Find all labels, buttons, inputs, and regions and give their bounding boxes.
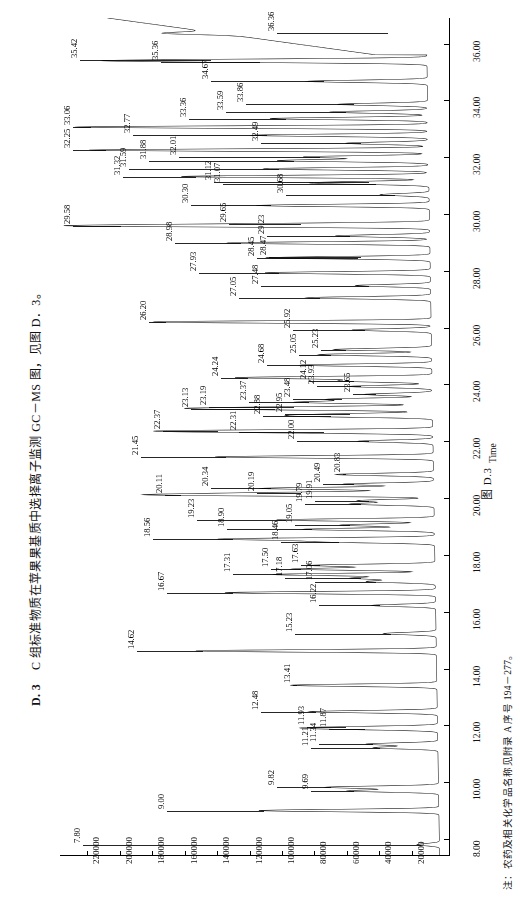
peak-label: 20.83 (332, 453, 342, 472)
intensity-tick-label: 220000 (91, 837, 101, 864)
peak-leader-line (285, 414, 350, 415)
peak-label: 15.23 (284, 612, 294, 631)
peak-label: 23.37 (238, 381, 248, 400)
peak-leader-line (226, 112, 346, 113)
peak-label: 35.36 (150, 40, 160, 59)
peak-leader-line (293, 330, 365, 331)
time-tick (444, 555, 450, 556)
time-tick-label: 22.00 (472, 438, 482, 459)
peak-label: 20.11 (154, 474, 164, 493)
time-tick (444, 498, 450, 499)
intensity-tick (412, 851, 413, 856)
peak-leader-line (161, 62, 260, 63)
peak-leader-line (261, 143, 361, 144)
intensity-tick-label: 200000 (124, 837, 134, 864)
caption-number: D. 3 (29, 684, 43, 706)
peak-leader-line (141, 457, 226, 458)
peak-leader-line (189, 119, 286, 120)
peak-leader-line (239, 432, 324, 433)
peak-label: 9.82 (266, 770, 276, 785)
peak-label: 9.00 (156, 794, 166, 809)
peak-label: 27.48 (250, 264, 260, 283)
intensity-tick (347, 851, 348, 856)
peak-leader-line (149, 161, 294, 162)
peak-leader-line (191, 205, 271, 206)
peak-label: 32.01 (168, 136, 178, 155)
time-tick (444, 157, 450, 158)
peak-leader-line (321, 350, 346, 351)
peak-label: 22.31 (228, 411, 238, 430)
intensity-tick (185, 851, 186, 856)
peak-label: 32.25 (62, 129, 72, 148)
peak-label: 14.62 (126, 630, 136, 649)
peak-label: 34.67 (200, 60, 210, 79)
time-tick-label: 26.00 (472, 324, 482, 345)
peak-leader-line (246, 104, 354, 105)
peak-leader-line (286, 195, 395, 196)
peak-label: 33.36 (178, 97, 188, 116)
peak-label: 17.18 (274, 557, 284, 576)
time-tick (444, 384, 450, 385)
peak-label: 13.41 (282, 664, 292, 683)
intensity-tick-label: 140000 (221, 837, 231, 864)
peak-leader-line (73, 150, 106, 151)
peak-label: 9.69 (300, 774, 310, 789)
intensity-tick (282, 851, 283, 856)
peak-label: 22.00 (286, 420, 296, 439)
peak-label: 23.19 (198, 386, 208, 405)
peak-label: 25.23 (310, 328, 320, 347)
intensity-tick (314, 851, 315, 856)
peak-label: 16.22 (308, 584, 318, 603)
time-tick-label: 18.00 (472, 552, 482, 573)
time-tick-label: 36.00 (472, 40, 482, 61)
peak-label: 23.13 (180, 388, 190, 407)
peak-label: 28.98 (164, 222, 174, 241)
peak-leader-line (179, 157, 320, 158)
peak-label: 28.47 (258, 236, 268, 255)
peak-leader-line (263, 416, 331, 417)
peak-label: 24.68 (256, 344, 266, 363)
peak-label: 33.06 (62, 106, 72, 125)
peak-label: 11.87 (318, 708, 328, 727)
intensity-tick (152, 851, 153, 856)
peak-label: 17.06 (304, 560, 314, 579)
time-tick (444, 782, 450, 783)
peak-label: 31.32 (112, 155, 122, 174)
time-tick-label: 32.00 (472, 154, 482, 175)
peak-leader-line (83, 845, 421, 846)
peak-leader-line (149, 322, 166, 323)
time-tick (444, 669, 450, 670)
peak-label: 17.31 (222, 553, 232, 572)
peak-label: 18.46 (270, 520, 280, 539)
peak-label: 7.80 (72, 828, 82, 843)
peak-label: 33.86 (235, 83, 245, 102)
peak-leader-line (297, 441, 369, 442)
peak-leader-line (221, 378, 248, 379)
time-tick (444, 328, 450, 329)
peak-label: 30.68 (275, 173, 285, 192)
peak-label: 27.93 (188, 251, 198, 270)
peak-leader-line (323, 484, 354, 485)
time-tick-label: 20.00 (472, 495, 482, 516)
time-tick-label: 10.00 (472, 779, 482, 800)
peak-label: 22.88 (252, 395, 262, 414)
time-axis-title: Time (488, 444, 498, 464)
figure-page: D. 3 C 组标准物质在苹果果基质中选择离子监测 GC－MS 图，见图 D．3… (0, 0, 520, 920)
peak-leader-line (311, 748, 380, 749)
peak-label: 24.24 (210, 356, 220, 375)
figure-note: 注：农药及相关化学品名称见附录 A 序号 194－277。 (500, 649, 514, 890)
peak-leader-line (261, 712, 316, 713)
peak-label: 17.50 (260, 548, 270, 567)
time-tick-label: 28.00 (472, 267, 482, 288)
peak-label: 28.45 (246, 237, 256, 256)
peak-leader-line (329, 729, 365, 730)
peak-leader-line (293, 685, 297, 686)
peak-label: 35.42 (69, 39, 79, 58)
peak-leader-line (257, 258, 358, 259)
peak-leader-line (343, 474, 346, 475)
intensity-tick (120, 851, 121, 856)
time-tick (444, 214, 450, 215)
time-tick (444, 441, 450, 442)
peak-leader-line (175, 243, 241, 244)
peak-leader-line (153, 539, 233, 540)
